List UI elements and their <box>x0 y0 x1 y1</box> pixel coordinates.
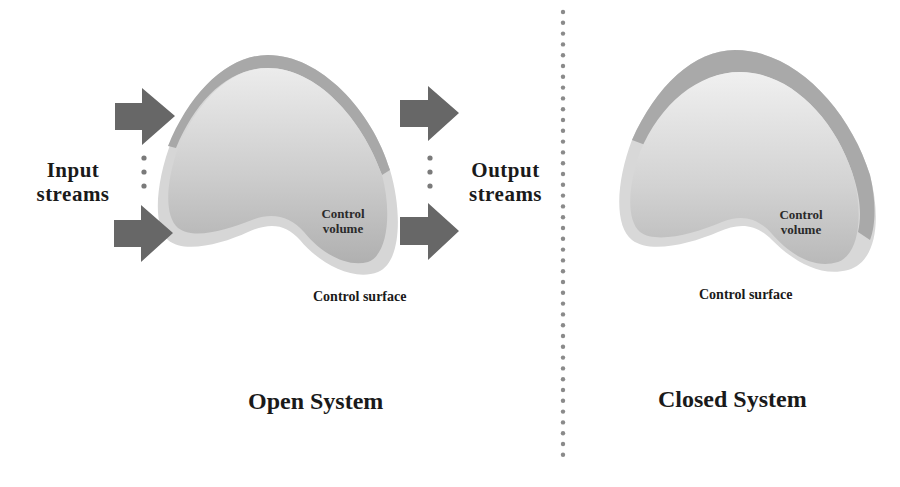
closed-cv-line-1: Control <box>761 208 841 223</box>
diagram-canvas <box>0 0 900 487</box>
output-label-line-2: streams <box>458 182 553 206</box>
closed-system-title: Closed System <box>658 386 807 414</box>
open-system-shape <box>158 55 398 275</box>
input-label-line-2: streams <box>28 182 118 206</box>
input-arrow-top <box>115 88 175 145</box>
closed-control-surface-label: Control surface <box>699 287 792 303</box>
open-control-volume-label: Control volume <box>303 207 383 237</box>
input-label-line-1: Input <box>28 158 118 182</box>
input-streams-label: Input streams <box>28 158 118 206</box>
output-streams-label: Output streams <box>458 158 553 206</box>
input-ellipsis <box>141 155 146 188</box>
open-cv-line-2: volume <box>303 222 383 237</box>
closed-control-volume-label: Control volume <box>761 208 841 238</box>
output-label-line-1: Output <box>458 158 553 182</box>
output-arrow-top <box>400 86 459 141</box>
output-ellipsis <box>427 155 432 188</box>
output-arrow-bottom <box>400 203 459 260</box>
dotted-divider <box>561 10 565 457</box>
closed-cv-line-2: volume <box>761 223 841 238</box>
open-cv-line-1: Control <box>303 207 383 222</box>
closed-system-shape <box>619 50 876 272</box>
open-control-surface-label: Control surface <box>313 289 406 305</box>
open-system-title: Open System <box>248 388 383 416</box>
